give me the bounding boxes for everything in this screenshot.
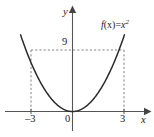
function-exponent: 2 <box>126 18 130 26</box>
plot-canvas <box>0 0 154 137</box>
parabola-figure: y x 0 –3 3 9 f(x)=x2 <box>0 0 154 137</box>
y-axis-label: y <box>63 7 68 18</box>
y-tick-label-9: 9 <box>62 37 67 48</box>
y-axis-arrow-icon <box>69 6 76 14</box>
guide-lines <box>31 50 124 111</box>
x-tick-label-pos3: 3 <box>120 114 125 125</box>
x-axis-label: x <box>141 115 146 126</box>
function-label: f(x)=x2 <box>101 19 129 30</box>
function-arg: (x)= <box>104 19 121 30</box>
origin-label: 0 <box>65 114 70 125</box>
x-tick-label-neg3: –3 <box>25 114 36 125</box>
